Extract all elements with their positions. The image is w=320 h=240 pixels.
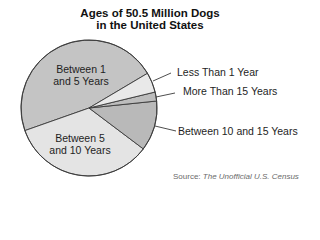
source-prefix: Source: [173, 172, 203, 181]
leader-line-less-than-1-year [153, 73, 171, 81]
label-between-5-and-10-years: Between 5 and 10 Years [35, 133, 125, 156]
label-between-10-and-15-years: Between 10 and 15 Years [178, 125, 298, 137]
label-between-1-and-5-years-line-1: Between 1 [36, 64, 126, 76]
leader-line-between-10-and-15-years [155, 126, 176, 131]
label-less-than-1-year: Less Than 1 Year [177, 66, 259, 78]
label-between-1-and-5-years-line-2: and 5 Years [36, 76, 126, 88]
source-note: Source: The Unofficial U.S. Census [173, 172, 299, 181]
label-between-5-and-10-years-line-2: and 10 Years [35, 145, 125, 157]
label-more-than-15-years: More Than 15 Years [183, 85, 277, 97]
label-between-1-and-5-years: Between 1 and 5 Years [36, 64, 126, 87]
leader-line-more-than-15-years [156, 93, 175, 97]
source-title: The Unofficial U.S. Census [203, 172, 299, 181]
label-between-5-and-10-years-line-1: Between 5 [35, 133, 125, 145]
